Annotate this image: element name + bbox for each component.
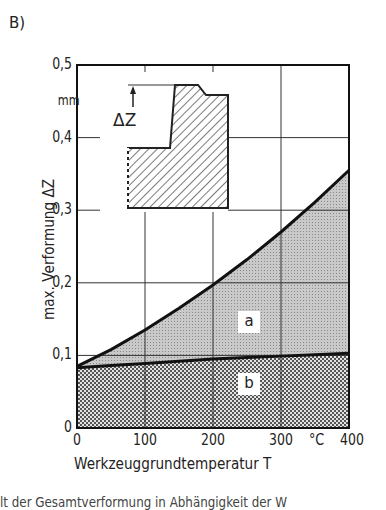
x-tick-label: 100: [129, 430, 160, 449]
caption-partial: lt der Gesamtverformung in Abhängigkeit …: [0, 494, 287, 510]
y-tick-label: 0,1: [41, 344, 72, 363]
y-tick-label: 0,5: [41, 54, 72, 73]
x-unit-label: °C: [309, 430, 324, 449]
y-tick-label: 0,3: [41, 199, 72, 218]
y-unit-label: mm: [58, 92, 80, 108]
x-tick-label: 400: [336, 430, 367, 449]
region-a-label: a: [238, 311, 260, 333]
y-tick-label: 0,4: [41, 127, 72, 146]
x-tick-label: 200: [197, 430, 228, 449]
y-axis-label: max. Verformung ΔZ: [39, 156, 58, 343]
delta-z-label: ΔZ: [113, 110, 136, 130]
x-tick-label: 300: [265, 430, 296, 449]
region-b-label: b: [238, 373, 260, 395]
y-tick-label: 0,2: [41, 272, 72, 291]
x-tick-label: 0: [61, 430, 92, 449]
x-axis-label: Werkzeuggrundtemperatur T: [74, 454, 271, 473]
